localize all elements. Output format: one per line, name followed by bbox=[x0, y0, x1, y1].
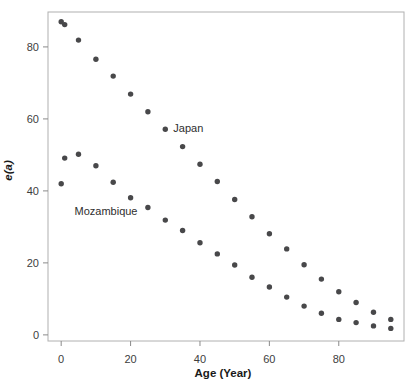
data-point-japan bbox=[128, 91, 133, 96]
data-point-mozambique bbox=[76, 152, 81, 157]
data-point-japan bbox=[180, 144, 185, 149]
y-axis-title: e(a) bbox=[2, 160, 14, 181]
data-point-mozambique bbox=[336, 317, 341, 322]
y-tick-label: 20 bbox=[27, 257, 39, 269]
data-point-japan bbox=[371, 310, 376, 315]
x-axis-title: Age (Year) bbox=[195, 367, 252, 379]
data-point-mozambique bbox=[145, 205, 150, 210]
x-tick-label: 80 bbox=[333, 353, 345, 365]
y-tick-label: 80 bbox=[27, 41, 39, 53]
data-point-mozambique bbox=[62, 155, 67, 160]
data-point-japan bbox=[76, 37, 81, 42]
chart-figure: 020406080020406080 JapanMozambique Age (… bbox=[0, 0, 415, 389]
x-tick-label: 60 bbox=[263, 353, 275, 365]
data-point-mozambique bbox=[128, 195, 133, 200]
data-point-mozambique bbox=[249, 275, 254, 280]
data-points bbox=[59, 19, 394, 331]
data-point-mozambique bbox=[163, 217, 168, 222]
data-point-mozambique bbox=[284, 294, 289, 299]
data-point-japan bbox=[388, 317, 393, 322]
data-point-japan bbox=[267, 231, 272, 236]
series-labels: JapanMozambique bbox=[75, 122, 204, 217]
x-tick-label: 0 bbox=[58, 353, 64, 365]
data-point-mozambique bbox=[301, 303, 306, 308]
data-point-mozambique bbox=[215, 251, 220, 256]
data-point-japan bbox=[249, 214, 254, 219]
data-point-mozambique bbox=[371, 323, 376, 328]
data-point-mozambique bbox=[180, 228, 185, 233]
data-point-mozambique bbox=[388, 326, 393, 331]
scatter-plot: 020406080020406080 JapanMozambique Age (… bbox=[0, 0, 415, 389]
data-point-japan bbox=[163, 127, 168, 132]
y-tick-label: 40 bbox=[27, 185, 39, 197]
data-point-japan bbox=[215, 179, 220, 184]
data-point-japan bbox=[93, 57, 98, 62]
data-point-mozambique bbox=[319, 311, 324, 316]
data-point-japan bbox=[145, 109, 150, 114]
data-point-japan bbox=[232, 197, 237, 202]
plot-frame bbox=[48, 12, 404, 341]
x-tick-label: 20 bbox=[124, 353, 136, 365]
y-tick-label: 0 bbox=[33, 329, 39, 341]
series-label-mozambique: Mozambique bbox=[75, 205, 138, 217]
data-point-japan bbox=[197, 162, 202, 167]
data-point-mozambique bbox=[111, 180, 116, 185]
x-tick-label: 40 bbox=[194, 353, 206, 365]
data-point-mozambique bbox=[232, 262, 237, 267]
data-point-mozambique bbox=[93, 163, 98, 168]
data-point-japan bbox=[353, 300, 358, 305]
data-point-japan bbox=[111, 73, 116, 78]
data-point-japan bbox=[301, 262, 306, 267]
data-point-japan bbox=[319, 276, 324, 281]
data-point-mozambique bbox=[353, 320, 358, 325]
data-point-mozambique bbox=[59, 181, 64, 186]
y-tick-label: 60 bbox=[27, 113, 39, 125]
data-point-japan bbox=[62, 22, 67, 27]
data-point-mozambique bbox=[197, 240, 202, 245]
data-point-mozambique bbox=[267, 284, 272, 289]
series-label-japan: Japan bbox=[173, 122, 203, 134]
axis-ticks: 020406080020406080 bbox=[27, 41, 345, 365]
data-point-japan bbox=[284, 246, 289, 251]
data-point-japan bbox=[336, 289, 341, 294]
